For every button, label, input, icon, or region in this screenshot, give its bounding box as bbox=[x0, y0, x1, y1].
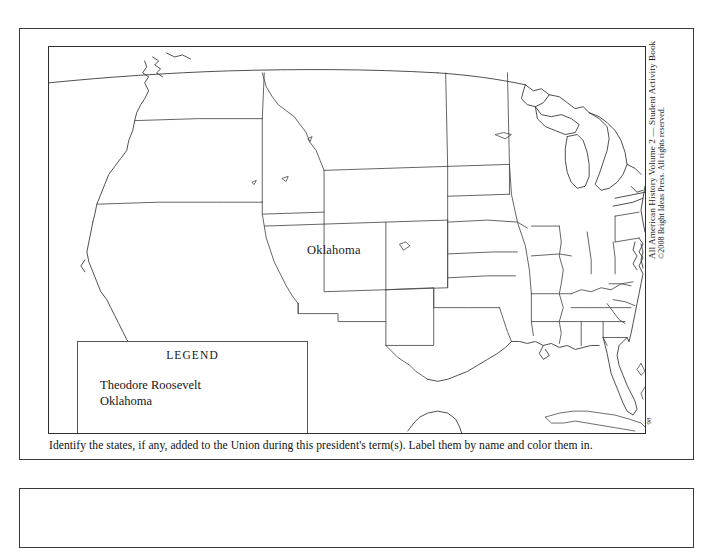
legend-title: LEGEND bbox=[78, 349, 307, 361]
credit-block: All American History Volume 2 — Student … bbox=[637, 37, 663, 297]
credit-copyright-line: ©2008 Bright Ideas Press. All rights res… bbox=[657, 107, 666, 259]
legend-box: LEGEND Theodore Roosevelt Oklahoma bbox=[77, 341, 308, 434]
page-number: 98 bbox=[645, 418, 653, 425]
legend-entries: Theodore Roosevelt Oklahoma bbox=[78, 377, 307, 409]
legend-entry-state: Oklahoma bbox=[100, 393, 307, 409]
map-label-oklahoma: Oklahoma bbox=[307, 243, 361, 258]
worksheet-page: Oklahoma LEGEND Theodore Roosevelt Oklah… bbox=[19, 28, 694, 460]
next-worksheet-page bbox=[19, 488, 694, 548]
us-outline-map: Oklahoma LEGEND Theodore Roosevelt Oklah… bbox=[48, 46, 646, 434]
instruction-caption: Identify the states, if any, added to th… bbox=[49, 439, 659, 452]
legend-entry-president: Theodore Roosevelt bbox=[100, 377, 307, 393]
credit-title-line: All American History Volume 2 — Student … bbox=[647, 41, 657, 259]
